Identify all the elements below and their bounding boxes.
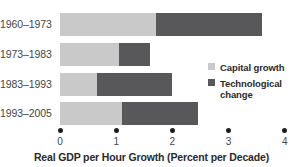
category-label: 1960–1973 [0, 13, 56, 36]
x-axis-tick-marker [282, 128, 287, 133]
bar-segment-capital-growth[interactable] [60, 73, 97, 96]
x-axis-tick-marker [58, 128, 63, 133]
legend-label: Capital growth [220, 62, 285, 73]
x-axis-tick-label: 0 [48, 136, 72, 147]
x-axis-tick-marker [170, 128, 175, 133]
legend-label: Technological change [220, 78, 282, 100]
stacked-bar [60, 102, 198, 125]
x-axis-tick-label: 3 [217, 136, 241, 147]
x-axis-title: Real GDP per Hour Growth (Percent per De… [0, 151, 303, 163]
category-label: 1993–2005 [0, 102, 56, 125]
stacked-bar-chart: 1960–1973 1973–1983 1983–1993 1993–2005 … [0, 0, 303, 167]
stacked-bar [60, 13, 262, 36]
category-label: 1973–1983 [0, 43, 56, 66]
x-axis-tick-label: 4 [273, 136, 297, 147]
bar-segment-technological-change[interactable] [156, 13, 263, 36]
x-axis-tick-label: 1 [104, 136, 128, 147]
bar-segment-capital-growth[interactable] [60, 43, 119, 66]
x-axis-tick-label: 2 [160, 136, 184, 147]
stacked-bar [60, 43, 150, 66]
bar-segment-technological-change[interactable] [122, 102, 198, 125]
bar-segment-capital-growth[interactable] [60, 102, 122, 125]
stacked-bar [60, 73, 172, 96]
x-axis-tick-marker [226, 128, 231, 133]
legend-item-technological-change[interactable]: Technological change [208, 78, 303, 100]
bar-segment-technological-change[interactable] [119, 43, 150, 66]
legend-item-capital-growth[interactable]: Capital growth [208, 62, 303, 73]
legend-swatch-icon [208, 63, 215, 70]
bar-segment-capital-growth[interactable] [60, 13, 156, 36]
legend-swatch-icon [208, 79, 215, 86]
legend: Capital growth Technological change [208, 62, 303, 105]
category-label: 1983–1993 [0, 73, 56, 96]
x-axis-tick-marker [114, 128, 119, 133]
bar-segment-technological-change[interactable] [97, 73, 173, 96]
